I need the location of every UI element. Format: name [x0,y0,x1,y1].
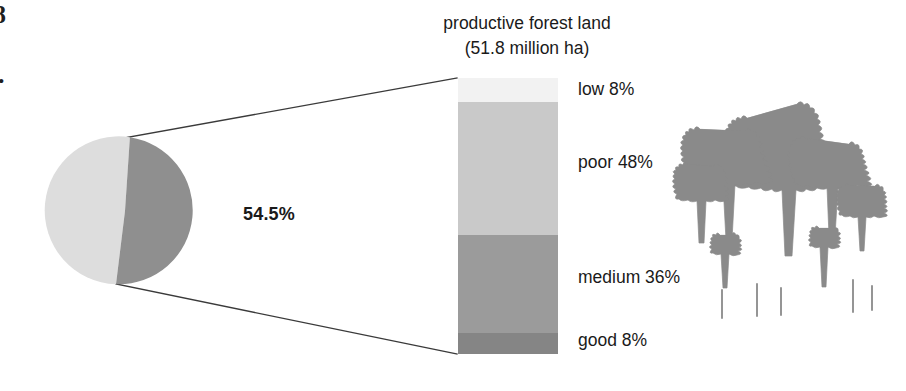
bar-segment-medium [458,235,558,333]
chart-title: productive forest land (51.8 million ha) [396,11,658,61]
figure-productive-forest-land: 8 . [0,0,906,391]
bar-segment-low [458,78,558,102]
bar-segment-poor [458,102,558,235]
pie-slice-other [45,136,130,284]
stacked-bar-breakdown [458,78,558,354]
tree-trunks [722,280,872,318]
conifer-forest-illustration [673,102,888,318]
pie-chart [45,136,193,284]
tree-understory-left [710,233,742,289]
tree-understory-right [809,226,841,288]
pie-value-label: 54.5% [243,204,295,225]
bar-label-medium: medium 36% [578,267,680,287]
bar-label-poor: poor 48% [578,152,653,172]
bar-segment-good [458,333,558,354]
chart-subtitle-line-2: (51.8 million ha) [465,38,590,58]
bar-label-good: good 8% [578,330,647,350]
tree-far-right [836,184,888,251]
tree-far-left [673,162,730,243]
chart-title-line-1: productive forest land [443,13,610,33]
bar-label-low: low 8% [578,79,634,99]
leader-line-bottom [116,284,457,354]
leader-line-top [127,78,457,138]
